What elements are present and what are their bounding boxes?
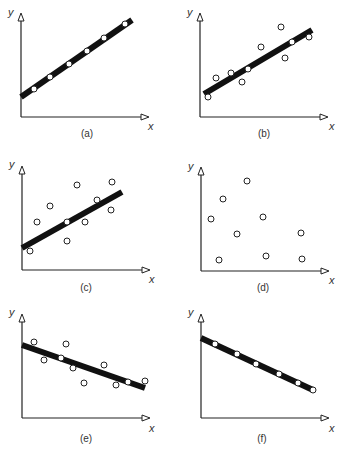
data-point: [310, 387, 316, 393]
data-point: [253, 361, 259, 367]
y-axis-arrow-icon: [198, 314, 204, 322]
data-point: [276, 371, 282, 377]
panel-f: y x (f): [0, 0, 172, 150]
x-axis-arrow-icon: [321, 415, 329, 421]
x-axis-label: x: [329, 422, 335, 434]
panel-caption: (f): [242, 433, 282, 444]
data-point: [295, 380, 301, 386]
scatterplot-figure: y x (a) y x (b) y x (c) y x (d) y x (e) …: [0, 0, 345, 460]
data-point: [234, 351, 240, 357]
y-axis-label: y: [188, 306, 194, 318]
data-point: [212, 341, 218, 347]
panel-f-plot: [0, 0, 345, 450]
